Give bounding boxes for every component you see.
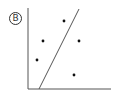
scatter-plot <box>0 0 114 92</box>
regression-line <box>39 9 79 89</box>
data-point <box>73 74 76 77</box>
trend-line <box>39 9 79 89</box>
data-point <box>63 20 66 23</box>
data-point <box>78 40 81 43</box>
data-point <box>42 40 45 43</box>
data-point <box>36 59 39 62</box>
data-points <box>36 20 81 77</box>
